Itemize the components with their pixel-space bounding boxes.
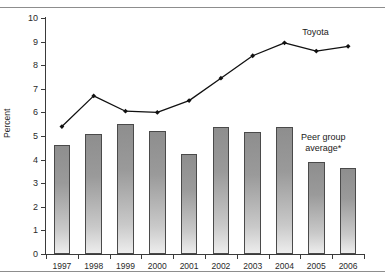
y-axis-tick bbox=[41, 18, 46, 19]
y-axis-tick bbox=[41, 89, 46, 90]
bar-2002 bbox=[213, 127, 230, 254]
x-axis-tick-label: 2001 bbox=[180, 262, 199, 271]
x-axis-tick bbox=[110, 254, 111, 259]
bar-1999 bbox=[117, 124, 134, 254]
y-axis-tick bbox=[41, 230, 46, 231]
bar-1997 bbox=[54, 145, 71, 254]
toyota-marker-1999 bbox=[123, 109, 128, 114]
y-axis-tick bbox=[41, 65, 46, 66]
x-axis-tick-label: 1997 bbox=[52, 262, 71, 271]
x-axis-tick-label: 2004 bbox=[275, 262, 294, 271]
y-axis-tick bbox=[41, 207, 46, 208]
x-axis-tick bbox=[46, 254, 47, 259]
toyota-marker-2006 bbox=[346, 44, 351, 49]
toyota-marker-2000 bbox=[155, 110, 160, 115]
bar-2001 bbox=[181, 154, 198, 254]
chart-figure: Percent 01234567891019971998199920002001… bbox=[0, 0, 385, 278]
bar-2006 bbox=[340, 168, 357, 254]
y-axis-tick-label: 4 bbox=[33, 155, 38, 164]
peer-label-line2: average* bbox=[305, 143, 341, 153]
x-axis-tick bbox=[205, 254, 206, 259]
y-axis-title: Percent bbox=[2, 109, 12, 138]
series-label-peer-group: Peer group average* bbox=[292, 132, 354, 153]
y-axis-tick-label: 8 bbox=[33, 61, 38, 70]
y-axis-tick bbox=[41, 42, 46, 43]
bar-2004 bbox=[276, 127, 293, 254]
bar-2003 bbox=[244, 132, 261, 254]
bar-2005 bbox=[308, 162, 325, 254]
y-axis-tick-label: 9 bbox=[33, 37, 38, 46]
x-axis-tick bbox=[269, 254, 270, 259]
x-axis-tick-label: 1999 bbox=[116, 262, 135, 271]
y-axis-tick-label: 1 bbox=[33, 226, 38, 235]
bar-1998 bbox=[85, 134, 102, 254]
x-axis-tick-label: 2006 bbox=[339, 262, 358, 271]
y-axis-tick bbox=[41, 112, 46, 113]
series-label-toyota: Toyota bbox=[302, 27, 329, 37]
top-divider-rule bbox=[0, 7, 385, 8]
bar-2000 bbox=[149, 131, 166, 254]
x-axis-tick-label: 2005 bbox=[307, 262, 326, 271]
x-axis-tick bbox=[237, 254, 238, 259]
x-axis-tick-label: 2003 bbox=[243, 262, 262, 271]
x-axis-tick-label: 2000 bbox=[148, 262, 167, 271]
y-axis-tick-label: 7 bbox=[33, 84, 38, 93]
y-axis-tick bbox=[41, 183, 46, 184]
y-axis-tick-label: 5 bbox=[33, 132, 38, 141]
toyota-marker-2004 bbox=[282, 40, 287, 45]
y-axis-tick bbox=[41, 160, 46, 161]
x-axis-tick bbox=[173, 254, 174, 259]
x-axis-tick-label: 2002 bbox=[211, 262, 230, 271]
toyota-polyline bbox=[62, 43, 348, 127]
x-axis-tick bbox=[364, 254, 365, 259]
y-axis-tick-label: 0 bbox=[33, 250, 38, 259]
y-axis-tick-label: 6 bbox=[33, 108, 38, 117]
peer-label-line1: Peer group bbox=[301, 132, 346, 142]
x-axis-tick bbox=[78, 254, 79, 259]
x-axis-tick-label: 1998 bbox=[84, 262, 103, 271]
x-axis-tick bbox=[332, 254, 333, 259]
x-axis-tick bbox=[300, 254, 301, 259]
y-axis-tick bbox=[41, 136, 46, 137]
y-axis-tick-label: 3 bbox=[33, 179, 38, 188]
y-axis-tick-label: 10 bbox=[28, 14, 38, 23]
bottom-divider-rule bbox=[0, 271, 385, 272]
y-axis-tick-label: 2 bbox=[33, 202, 38, 211]
x-axis-tick bbox=[141, 254, 142, 259]
toyota-marker-2005 bbox=[314, 49, 319, 54]
